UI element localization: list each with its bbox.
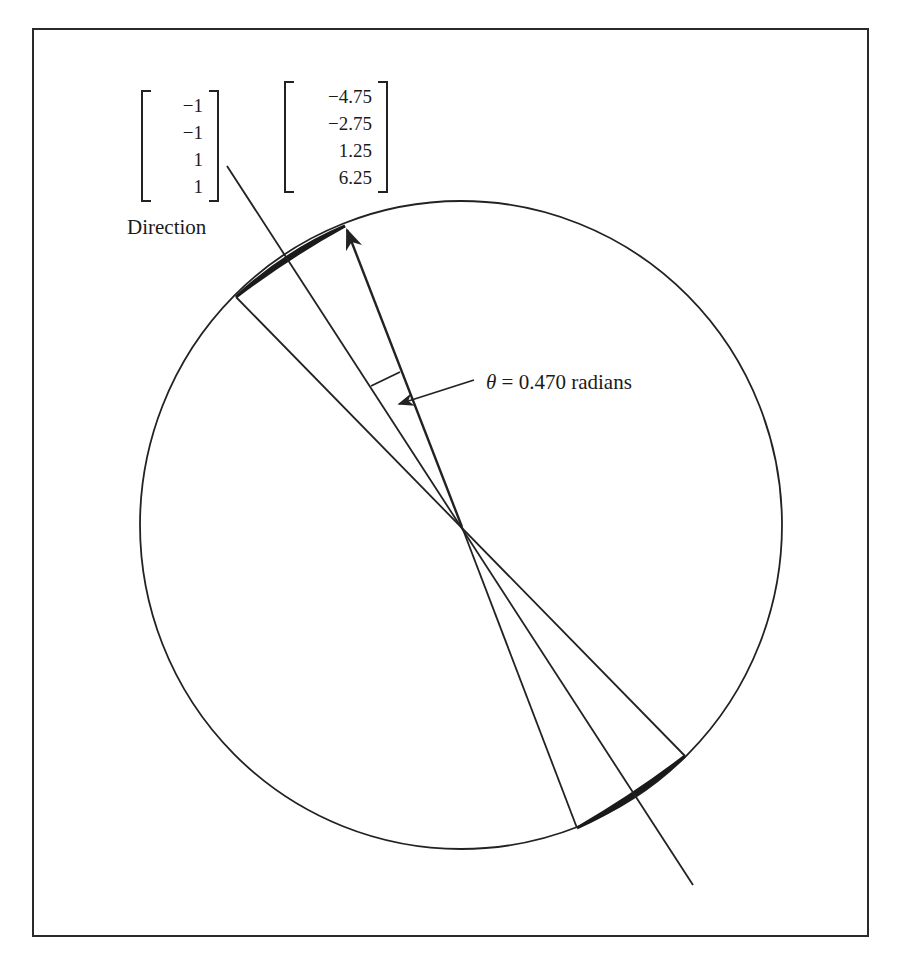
matrix-bracket-left xyxy=(141,90,151,202)
point-vector-entry: −4.75 xyxy=(328,83,372,110)
angle-value: 0.470 xyxy=(519,370,566,394)
cone-diagram xyxy=(0,0,897,958)
direction-vector-entry: −1 xyxy=(183,92,203,119)
angle-marker xyxy=(371,372,400,386)
direction-vector-entry: −1 xyxy=(183,119,203,146)
cone-boundary-line-b xyxy=(462,527,577,828)
point-vector-matrix: −4.75 −2.75 1.25 6.25 xyxy=(284,81,388,193)
point-vector-entry: −2.75 xyxy=(328,110,372,137)
angle-label: θ = 0.470 radians xyxy=(486,370,632,395)
matrix-bracket-left xyxy=(284,81,294,193)
cap-region-top xyxy=(236,226,345,297)
cone-boundary-line-a xyxy=(236,297,685,756)
theta-symbol: θ xyxy=(486,370,496,394)
point-vector-entry: 6.25 xyxy=(339,164,372,191)
direction-vector-entry: 1 xyxy=(194,173,204,200)
equals-sign: = xyxy=(496,370,518,394)
direction-vector-entry: 1 xyxy=(194,146,204,173)
matrix-bracket-right xyxy=(209,90,219,202)
direction-vector-matrix: −1 −1 1 1 xyxy=(141,90,219,202)
matrix-bracket-right xyxy=(378,81,388,193)
point-vector-entry: 1.25 xyxy=(339,137,372,164)
direction-caption: Direction xyxy=(127,215,206,240)
angle-unit: radians xyxy=(566,370,632,394)
cap-region-bottom xyxy=(577,756,685,828)
